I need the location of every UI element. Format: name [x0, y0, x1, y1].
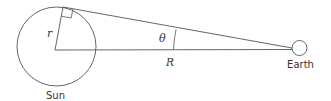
- radius-label: r: [47, 27, 53, 40]
- sun-label: Sun: [46, 90, 65, 101]
- earth-label: Earth: [287, 59, 314, 70]
- radius-line: [55, 7, 63, 50]
- distance-line: [55, 50, 292, 51]
- sun-earth-angle-diagram: r θ R Sun Earth: [0, 0, 331, 101]
- tangent-line: [63, 7, 292, 48]
- angle-arc: [174, 30, 177, 50]
- distance-label: R: [165, 56, 174, 68]
- earth-circle: [292, 41, 307, 56]
- sun-circle: [17, 7, 96, 86]
- angle-label: θ: [159, 32, 166, 45]
